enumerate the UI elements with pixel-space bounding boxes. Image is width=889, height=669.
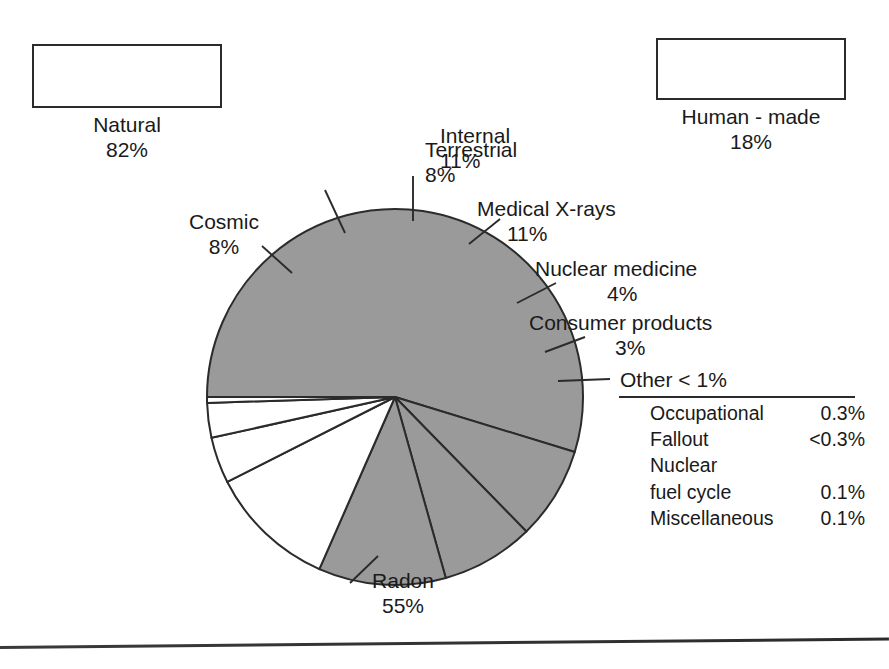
legend-human-made-text: Human - made — [651, 104, 851, 129]
other-breakdown-row: fuel cycle0.1% — [650, 479, 865, 505]
callout-medical-xrays-value: 11% — [477, 221, 616, 246]
callout-consumer-products-label: Consumer products — [529, 310, 712, 335]
callout-cosmic-value: 8% — [168, 234, 280, 259]
other-breakdown-value: 0.3% — [790, 400, 865, 426]
other-breakdown-row: Fallout<0.3% — [650, 426, 865, 452]
legend-natural-value: 82% — [32, 137, 222, 162]
other-breakdown-row: Miscellaneous0.1% — [650, 505, 865, 531]
callout-radon-label: Radon — [343, 568, 463, 593]
legend-label-natural: Natural 82% — [32, 112, 222, 162]
other-breakdown-value: <0.3% — [790, 426, 865, 452]
other-breakdown-value — [790, 452, 865, 478]
other-breakdown-label: Nuclear — [650, 452, 790, 478]
other-breakdown-value: 0.1% — [790, 505, 865, 531]
legend-human-made-value: 18% — [651, 129, 851, 154]
other-breakdown-label: Miscellaneous — [650, 505, 790, 531]
other-breakdown-table: Occupational0.3%Fallout<0.3%Nuclearfuel … — [650, 400, 865, 531]
other-breakdown-row: Nuclear — [650, 452, 865, 478]
legend-swatch-natural — [32, 44, 222, 108]
other-breakdown-row: Occupational0.3% — [650, 400, 865, 426]
callout-cosmic-label: Cosmic — [168, 209, 280, 234]
callout-consumer-products-value: 3% — [529, 335, 712, 360]
callout-medical-xrays-label: Medical X-rays — [477, 196, 616, 221]
callout-other: Other < 1% — [620, 368, 727, 392]
callout-medical-xrays: Medical X-rays 11% — [477, 196, 616, 246]
callout-radon: Radon 55% — [343, 568, 463, 618]
callout-nuclear-medicine: Nuclear medicine 4% — [535, 256, 697, 306]
callout-consumer-products: Consumer products 3% — [529, 310, 712, 360]
legend-natural-text: Natural — [32, 112, 222, 137]
callout-radon-value: 55% — [343, 593, 463, 618]
other-breakdown-label: fuel cycle — [650, 479, 790, 505]
callout-nuclear-medicine-value: 4% — [535, 281, 697, 306]
pie-slices — [207, 209, 583, 585]
other-divider — [619, 396, 855, 398]
legend-swatch-human-made — [656, 38, 846, 100]
other-breakdown-label: Fallout — [650, 426, 790, 452]
other-breakdown-label: Occupational — [650, 400, 790, 426]
callout-nuclear-medicine-label: Nuclear medicine — [535, 256, 697, 281]
other-breakdown-value: 0.1% — [790, 479, 865, 505]
callout-cosmic: Cosmic 8% — [168, 209, 280, 259]
chart-canvas: Natural 82% Human - made 18% Cosmic 8% T… — [0, 0, 889, 669]
legend-label-human-made: Human - made 18% — [651, 104, 851, 154]
